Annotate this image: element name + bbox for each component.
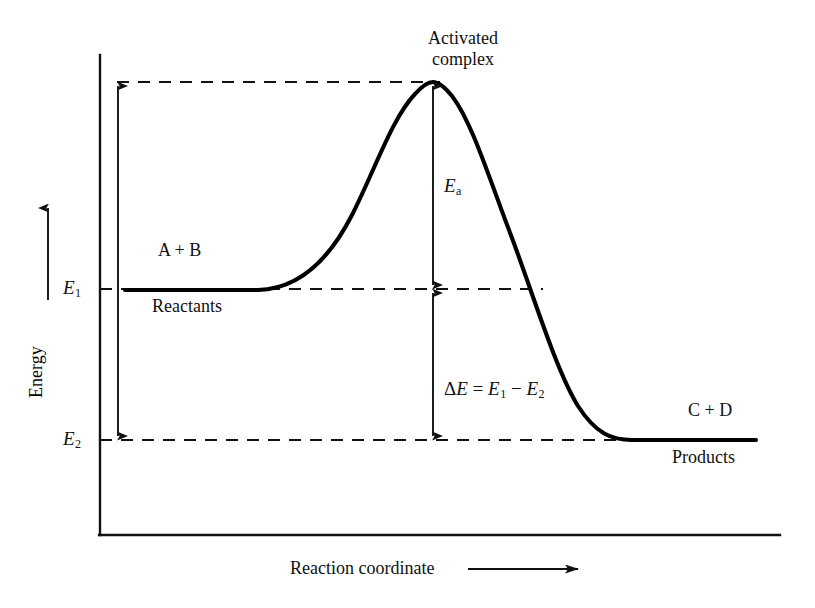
activated-complex-line-2: complex xyxy=(398,49,528,70)
diagram-canvas xyxy=(0,0,815,608)
delta-e-symbol: E xyxy=(456,378,468,399)
products-name-label: Products xyxy=(672,447,735,468)
activated-complex-label: Activated complex xyxy=(398,28,528,69)
ea-subscript: a xyxy=(456,184,462,198)
e2-symbol: E xyxy=(63,428,75,449)
reaction-energy-diagram: Activated complex E1 E2 A + B Reactants … xyxy=(0,0,815,608)
e1-symbol: E xyxy=(63,277,75,298)
ea-symbol: E xyxy=(444,175,456,196)
e2-axis-label: E2 xyxy=(63,428,81,452)
delta-e2-symbol: E xyxy=(526,378,538,399)
activated-complex-line-1: Activated xyxy=(398,28,528,49)
delta-e1-symbol: E xyxy=(488,378,500,399)
delta-symbol: Δ xyxy=(444,378,456,399)
energy-profile-curve xyxy=(125,82,756,440)
delta-energy-equation: ΔE = E1 − E2 xyxy=(444,378,544,402)
e2-subscript: 2 xyxy=(75,437,82,451)
energy-axis-label: Energy xyxy=(26,346,47,398)
reactants-species-label: A + B xyxy=(158,240,201,261)
e1-subscript: 1 xyxy=(75,286,82,300)
minus-sign: − xyxy=(506,378,526,399)
products-species-label: C + D xyxy=(688,400,732,421)
e1-axis-label: E1 xyxy=(63,277,81,301)
reaction-coordinate-axis-label: Reaction coordinate xyxy=(290,558,434,579)
activation-energy-label: Ea xyxy=(444,175,461,199)
level-guides xyxy=(100,82,637,440)
equals-sign: = xyxy=(468,378,488,399)
reactants-name-label: Reactants xyxy=(152,296,222,317)
delta-e2-subscript: 2 xyxy=(538,387,545,401)
